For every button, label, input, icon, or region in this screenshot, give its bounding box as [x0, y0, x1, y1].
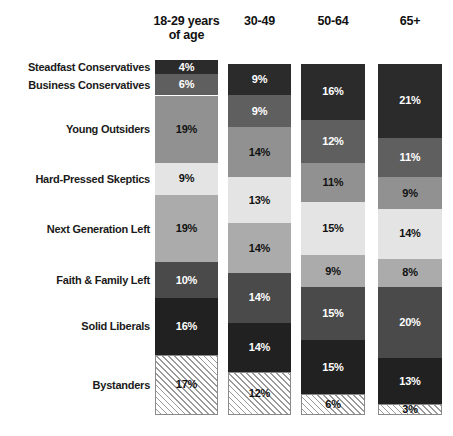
row-label-bystanders: Bystanders	[0, 379, 150, 391]
bar-segment: 9%	[228, 64, 291, 96]
segment-value-label: 15%	[322, 362, 343, 373]
bar-column: 4%6%19%9%19%10%16%17%	[155, 60, 218, 415]
bar-segment: 12%	[228, 372, 291, 415]
segment-value-label: 3%	[402, 404, 418, 415]
segment-value-label: 9%	[252, 74, 268, 85]
bar-segment: 9%	[228, 95, 291, 127]
bar-segment: 14%	[228, 323, 291, 373]
row-label-next-generation-left: Next Generation Left	[0, 223, 150, 235]
segment-value-label: 9%	[179, 173, 195, 184]
stacked-bar-chart: 18-29 years of age 30-49 50-64 65+ Stead…	[0, 0, 453, 436]
segment-value-label: 8%	[402, 267, 418, 278]
bar-segment: 9%	[378, 177, 442, 209]
segment-value-label: 9%	[402, 188, 418, 199]
bar-segment: 14%	[228, 127, 291, 177]
bar-segment: 14%	[228, 273, 291, 323]
bar-segment: 17%	[155, 355, 218, 415]
bar-column: 16%12%11%15%9%15%15%6%	[301, 64, 365, 415]
bar-segment: 13%	[378, 358, 442, 404]
segment-value-label: 14%	[249, 292, 270, 303]
bar-segment: 11%	[301, 163, 365, 202]
bar-segment: 16%	[301, 64, 365, 121]
bar-segment: 21%	[378, 64, 442, 139]
bar-segment: 13%	[228, 177, 291, 223]
segment-value-label: 19%	[176, 124, 197, 135]
row-label-business-conservatives: Business Conservatives	[0, 79, 150, 91]
bar-segment: 8%	[378, 259, 442, 287]
bar-segment: 16%	[155, 298, 218, 355]
segment-value-label: 9%	[325, 266, 341, 277]
bar-segment: 3%	[378, 404, 442, 415]
segment-value-label: 15%	[322, 308, 343, 319]
segment-value-label: 20%	[399, 317, 420, 328]
segment-value-label: 15%	[322, 223, 343, 234]
bar-segment: 19%	[155, 96, 218, 163]
segment-value-label: 21%	[399, 95, 420, 106]
segment-value-label: 11%	[323, 177, 344, 188]
segment-value-label: 4%	[179, 62, 195, 73]
bar-segment: 10%	[155, 262, 218, 298]
segment-value-label: 14%	[249, 243, 270, 254]
bar-segment: 6%	[301, 394, 365, 415]
segment-value-label: 17%	[176, 379, 197, 390]
column-header-65-plus: 65+	[360, 14, 453, 28]
segment-value-label: 6%	[179, 79, 195, 90]
segment-value-label: 14%	[399, 228, 420, 239]
segment-value-label: 10%	[176, 275, 197, 286]
bar-segment: 12%	[301, 120, 365, 163]
segment-value-label: 19%	[176, 223, 197, 234]
column-header-line2: of age	[137, 28, 237, 42]
row-label-steadfast-conservatives: Steadfast Conservatives	[0, 61, 150, 73]
bar-column: 21%11%9%14%8%20%13%3%	[378, 64, 442, 415]
bar-segment: 15%	[301, 202, 365, 255]
bar-segment: 15%	[301, 340, 365, 393]
bar-segment: 15%	[301, 287, 365, 340]
bar-segment: 4%	[155, 60, 218, 74]
column-header-line1: 65+	[360, 14, 453, 28]
bar-segment: 14%	[378, 209, 442, 259]
bar-segment: 20%	[378, 287, 442, 358]
segment-value-label: 14%	[249, 342, 270, 353]
segment-value-label: 6%	[325, 399, 341, 410]
bar-segment: 19%	[155, 195, 218, 262]
segment-value-label: 9%	[252, 106, 268, 117]
row-label-faith-family-left: Faith & Family Left	[0, 274, 150, 286]
segment-value-label: 16%	[176, 321, 197, 332]
segment-value-label: 16%	[322, 86, 343, 97]
row-label-hard-pressed-skeptics: Hard-Pressed Skeptics	[0, 173, 150, 185]
row-label-young-outsiders: Young Outsiders	[0, 123, 150, 135]
bar-column: 9%9%14%13%14%14%14%12%	[228, 64, 291, 415]
segment-value-label: 13%	[399, 376, 420, 387]
bar-segment: 6%	[155, 74, 218, 95]
segment-value-label: 12%	[249, 388, 270, 399]
bar-segment: 11%	[378, 138, 442, 177]
row-label-solid-liberals: Solid Liberals	[0, 320, 150, 332]
segment-value-label: 12%	[322, 136, 343, 147]
bar-segment: 9%	[155, 163, 218, 195]
bar-segment: 14%	[228, 223, 291, 273]
segment-value-label: 14%	[249, 147, 270, 158]
bar-segment: 9%	[301, 255, 365, 287]
segment-value-label: 11%	[400, 152, 421, 163]
segment-value-label: 13%	[249, 195, 270, 206]
row-label-column: Steadfast ConservativesBusiness Conserva…	[0, 0, 150, 436]
